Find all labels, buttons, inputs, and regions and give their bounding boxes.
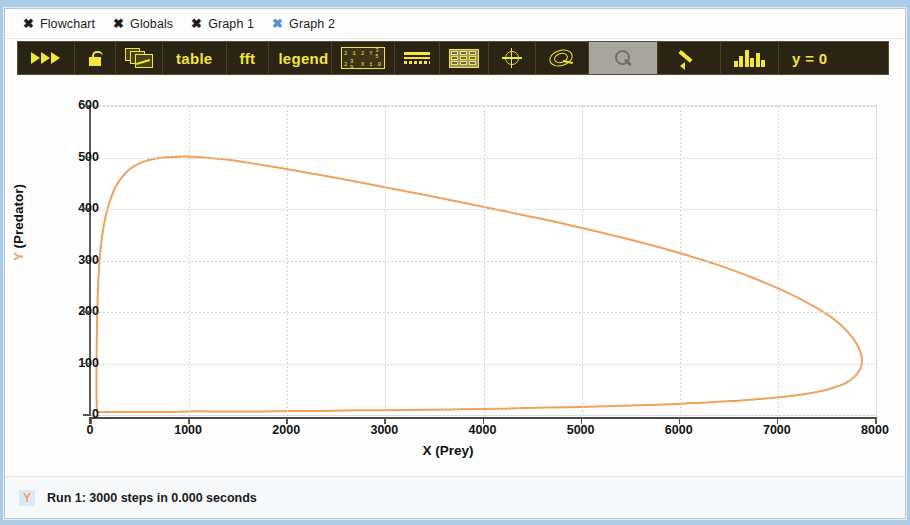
y-axis-tick-mark: [83, 311, 89, 313]
x-axis-label: X (Prey): [5, 443, 905, 458]
tab-label: Flowchart: [40, 17, 95, 31]
gridline-horizontal: [91, 106, 876, 107]
crosshair-button[interactable]: [489, 42, 536, 74]
y-axis-tick-label: 200: [53, 304, 99, 318]
x-axis-tick-label: 0: [87, 423, 94, 437]
y-axis-tick-mark: [83, 105, 89, 107]
run-icon: [31, 52, 61, 64]
line-style-button[interactable]: [395, 42, 440, 74]
phase-plot-button[interactable]: [536, 42, 589, 74]
series-path: [96, 156, 862, 411]
gridline-horizontal: [91, 261, 876, 262]
x-axis-tick-label: 6000: [665, 423, 693, 437]
magnifier-icon: [613, 49, 633, 68]
x-axis-tick-mark: [90, 418, 92, 424]
y-axis-tick-mark: [83, 208, 89, 210]
y-zero-label: y = 0: [792, 50, 827, 67]
fft-button[interactable]: fft: [227, 42, 270, 74]
tab-label: Globals: [130, 17, 173, 31]
status-badge: Y: [19, 490, 35, 506]
x-axis-tick-mark: [384, 418, 386, 424]
zoom-button: [589, 42, 658, 74]
numeric-grid-icon: 212Y3 5 23 9X10: [341, 47, 385, 69]
y-axis-label-prefix: Y: [11, 252, 26, 261]
gridline-horizontal: [91, 415, 876, 416]
x-axis-tick-label: 5000: [567, 423, 595, 437]
y-axis-tick-label: 100: [53, 356, 99, 370]
close-icon[interactable]: ✖: [272, 17, 283, 30]
histogram-icon: [734, 50, 766, 67]
table-button-label: table: [176, 50, 213, 67]
tab-graph-2[interactable]: ✖ Graph 2: [272, 17, 335, 31]
tab-globals[interactable]: ✖ Globals: [113, 17, 173, 31]
x-axis-tick-label: 1000: [174, 423, 202, 437]
grid-toggle-button[interactable]: [440, 42, 489, 74]
grid-icon: [449, 49, 479, 68]
x-axis-tick-label: 3000: [370, 423, 398, 437]
gridline-horizontal: [91, 364, 876, 365]
graph-window: ✖ Flowchart ✖ Globals ✖ Graph 1 ✖ Graph …: [4, 8, 906, 519]
x-axis-tick-mark: [581, 418, 583, 424]
gridline-horizontal: [91, 209, 876, 210]
crosshair-icon: [502, 48, 522, 68]
x-axis-tick-mark: [679, 418, 681, 424]
x-axis-tick-mark: [875, 418, 877, 424]
chart-area: Y (Predator) X (Prey) 010020030040050060…: [5, 81, 905, 471]
status-bar: Y Run 1: 3000 steps in 0.000 seconds: [5, 476, 905, 518]
table-button[interactable]: table: [163, 42, 227, 74]
x-axis-tick-mark: [777, 418, 779, 424]
graph-pages-icon: [125, 48, 153, 68]
tab-label: Graph 2: [289, 17, 335, 31]
run-button[interactable]: [18, 42, 75, 74]
y-axis-tick-label: 400: [53, 201, 99, 215]
legend-button-label: legend: [278, 50, 328, 67]
pencil-icon: [678, 48, 700, 68]
close-icon[interactable]: ✖: [191, 17, 202, 30]
y-axis-tick-mark: [83, 157, 89, 159]
y-axis-tick-mark: [83, 363, 89, 365]
annotate-button[interactable]: [658, 42, 721, 74]
y-axis-tick-label: 500: [53, 150, 99, 164]
y-axis-tick-mark: [83, 260, 89, 262]
x-axis-tick-mark: [188, 418, 190, 424]
histogram-button[interactable]: [721, 42, 780, 74]
legend-button[interactable]: legend: [269, 42, 331, 74]
y-axis-tick-label: 300: [53, 253, 99, 267]
tab-graph-1[interactable]: ✖ Graph 1: [191, 17, 254, 31]
graph-pages-button[interactable]: [116, 42, 163, 74]
close-icon[interactable]: ✖: [23, 17, 34, 30]
values-table-button[interactable]: 212Y3 5 23 9X10: [332, 42, 395, 74]
phase-plot-icon: [549, 49, 575, 68]
close-icon[interactable]: ✖: [113, 17, 124, 30]
status-text: Run 1: 3000 steps in 0.000 seconds: [47, 491, 257, 505]
gridline-horizontal: [91, 312, 876, 313]
y-axis-tick-label: 600: [53, 98, 99, 112]
y-axis-tick-label: 0: [53, 407, 99, 421]
fft-button-label: fft: [240, 50, 256, 67]
x-axis-tick-label: 4000: [469, 423, 497, 437]
plot-canvas[interactable]: [90, 105, 877, 416]
gridline-vertical: [876, 106, 877, 415]
x-axis-tick-mark: [483, 418, 485, 424]
lock-button[interactable]: [75, 42, 116, 74]
y-axis-label-rest: (Predator): [11, 184, 26, 252]
lines-icon: [404, 50, 430, 67]
y-zero-button[interactable]: y = 0: [779, 42, 840, 74]
y-axis-tick-mark: [83, 414, 89, 416]
unlock-icon: [88, 51, 102, 66]
x-axis-tick-mark: [286, 418, 288, 424]
x-axis-tick-label: 8000: [861, 423, 889, 437]
x-axis-tick-label: 7000: [763, 423, 791, 437]
gridline-horizontal: [91, 158, 876, 159]
tab-label: Graph 1: [208, 17, 254, 31]
y-axis-label: Y (Predator): [11, 184, 26, 261]
tab-flowchart[interactable]: ✖ Flowchart: [23, 17, 95, 31]
x-axis-tick-label: 2000: [272, 423, 300, 437]
graph-toolbar: table fft legend 212Y3 5 23 9X10: [17, 41, 889, 75]
tab-bar: ✖ Flowchart ✖ Globals ✖ Graph 1 ✖ Graph …: [5, 9, 905, 39]
